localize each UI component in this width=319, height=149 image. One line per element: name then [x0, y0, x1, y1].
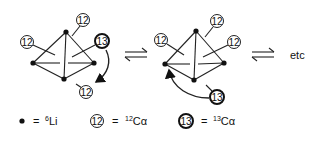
legend-li: = 6Li [19, 115, 57, 127]
svg-text:6Li: 6Li [45, 115, 57, 127]
legend: = 6Li 12 = 12Cα 13 = 13Cα [19, 114, 235, 128]
svg-text:13: 13 [180, 116, 192, 127]
svg-text:13Cα: 13Cα [213, 115, 236, 127]
svg-text:12: 12 [211, 16, 223, 27]
svg-text:12: 12 [80, 87, 92, 98]
tetramer-2-substituents: 12 12 12 13 [155, 15, 241, 105]
li-atom [63, 29, 68, 34]
svg-text:=: = [201, 115, 207, 127]
svg-text:12: 12 [228, 37, 240, 48]
li-dot-icon [19, 118, 24, 123]
li-atom [191, 77, 196, 82]
equilibrium-arrow-1 [125, 48, 147, 61]
svg-text:12: 12 [21, 37, 33, 48]
li-atom [91, 60, 96, 65]
li-atom [30, 60, 35, 65]
etc-label: etc [290, 49, 305, 61]
equilibrium-arrow-2 [252, 48, 274, 61]
svg-text:13: 13 [211, 92, 223, 103]
exchange-diagram: 12 12 13 12 12 12 [0, 0, 319, 149]
svg-text:=: = [112, 115, 118, 127]
svg-text:=: = [33, 115, 39, 127]
li-atom [162, 61, 167, 66]
svg-text:12: 12 [155, 35, 167, 46]
tetramer-2 [165, 27, 228, 98]
svg-text:12: 12 [91, 116, 103, 127]
svg-text:12: 12 [77, 15, 89, 26]
li-atom [193, 28, 198, 33]
legend-13c: 13 = 13Cα [179, 114, 236, 128]
legend-12c: 12 = 12Cα [91, 115, 148, 128]
li-atom [61, 76, 66, 81]
svg-text:13: 13 [96, 36, 108, 47]
svg-text:12Cα: 12Cα [125, 115, 148, 127]
li-atom [221, 60, 226, 65]
